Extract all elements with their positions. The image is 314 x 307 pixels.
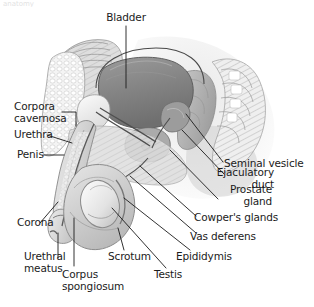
label-seminal-vesicle: Seminal vesicle bbox=[224, 158, 312, 170]
label-bladder: Bladder bbox=[104, 12, 148, 24]
leader-epididymis bbox=[124, 198, 190, 250]
label-testis: Testis bbox=[154, 269, 194, 281]
label-vas-deferens: Vas deferens bbox=[190, 231, 260, 243]
label-epididymis: Epididymis bbox=[176, 251, 238, 263]
label-penis: Penis bbox=[17, 149, 57, 161]
label-corpora-cavernosa: Corpora cavernosa bbox=[14, 101, 80, 124]
label-corpus-spongiosum: Corpus spongiosum bbox=[62, 269, 132, 292]
label-scrotum: Scrotum bbox=[108, 251, 158, 263]
label-urethra: Urethra bbox=[14, 129, 62, 141]
anatomy-diagram: anatomy bbox=[0, 0, 314, 307]
label-corona: Corona bbox=[17, 217, 63, 229]
label-cowpers-glands: Cowper's glands bbox=[194, 212, 280, 224]
label-ejaculatory-duct: Ejaculatory duct bbox=[206, 167, 274, 190]
